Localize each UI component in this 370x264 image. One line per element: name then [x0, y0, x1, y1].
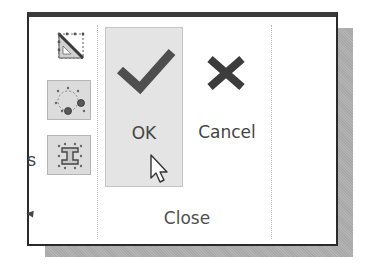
setsquare-icon — [51, 29, 93, 67]
group-divider-right — [271, 25, 272, 239]
sketch-circle-grips-tool-button[interactable] — [47, 80, 91, 120]
ok-button[interactable]: OK — [105, 27, 183, 187]
sketch-triangle-tool-button[interactable] — [51, 29, 93, 67]
partial-group-label: s — [27, 150, 36, 171]
x-icon — [185, 27, 269, 117]
circle-grips-icon — [48, 81, 92, 121]
close-group-label: Close — [105, 208, 269, 228]
cancel-button[interactable]: Cancel — [185, 27, 269, 187]
arrow-cursor-icon — [150, 154, 172, 188]
ribbon-panel-window: s — [27, 12, 338, 246]
checkmark-icon — [106, 28, 184, 118]
dropdown-triangle-icon[interactable] — [26, 211, 36, 219]
ok-label: OK — [106, 123, 182, 143]
group-divider-left — [97, 25, 98, 239]
ibeam-icon — [48, 136, 92, 176]
sketch-ibeam-tool-button[interactable] — [47, 135, 91, 175]
cancel-label: Cancel — [185, 122, 269, 142]
screenshot-stage: s — [0, 0, 370, 264]
